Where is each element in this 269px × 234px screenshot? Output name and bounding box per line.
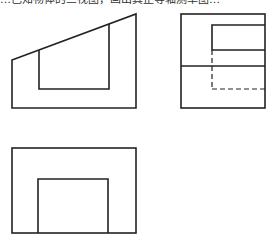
top-view-inner — [38, 179, 108, 233]
side-view-hidden-lines — [212, 50, 265, 89]
top-view-outline — [12, 148, 136, 233]
top-view — [12, 148, 136, 233]
three-view-drawing — [0, 0, 269, 234]
front-view — [12, 14, 136, 108]
side-view-outline — [181, 14, 265, 108]
front-view-notch — [39, 24, 109, 89]
side-view — [181, 14, 265, 108]
front-view-outline — [12, 14, 136, 108]
side-view-slot — [212, 25, 265, 50]
